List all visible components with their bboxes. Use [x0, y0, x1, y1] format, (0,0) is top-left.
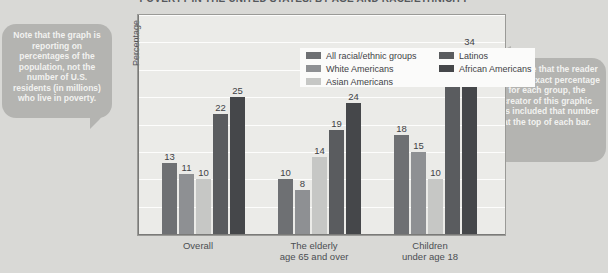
callout-left-text: Note that the graph is reporting on perc…	[13, 30, 101, 103]
legend-column-right: LatinosAfrican Americans	[439, 48, 535, 87]
bar-item[interactable]: 29	[445, 75, 460, 234]
bar-item[interactable]: 10	[278, 179, 293, 234]
bar[interactable]	[179, 174, 194, 234]
x-axis-category-line: The elderly	[254, 240, 374, 251]
x-axis-category-line: Children	[370, 240, 490, 251]
bar-value-label: 24	[348, 91, 359, 102]
bar[interactable]	[394, 135, 409, 234]
bar-item[interactable]: 19	[329, 130, 344, 234]
bar-item[interactable]: 10	[428, 179, 443, 234]
chart-title: POVERTY IN THE UNITED STATES, BY AGE AND…	[0, 0, 608, 2]
bar[interactable]	[329, 130, 344, 234]
bar[interactable]	[213, 114, 228, 234]
legend-item[interactable]: All racial/ethnic groups	[306, 50, 439, 61]
legend-item[interactable]: African Americans	[439, 63, 535, 74]
bar-value-label: 22	[215, 102, 226, 113]
legend-label: African Americans	[459, 64, 532, 74]
bar-item[interactable]: 18	[394, 135, 409, 234]
bar-item[interactable]: 15	[411, 152, 426, 234]
legend-swatch-icon	[306, 65, 321, 72]
bar-value-label: 34	[464, 36, 475, 47]
legend-label: Asian Americans	[326, 77, 393, 87]
legend-swatch-icon	[439, 65, 454, 72]
x-axis-line	[138, 234, 505, 235]
x-axis-category-line: Overall	[138, 240, 258, 251]
legend-column-left: All racial/ethnic groupsWhite AmericansA…	[300, 48, 439, 87]
bar-value-label: 8	[300, 178, 305, 189]
x-axis-category-line: age 65 and over	[254, 251, 374, 262]
chart-plot-area: 0%5%10%15%20%25%30%35%40% Percentage 131…	[137, 14, 506, 236]
bar-item[interactable]: 25	[230, 97, 245, 234]
legend-item[interactable]: Latinos	[439, 50, 535, 61]
bar[interactable]	[278, 179, 293, 234]
bar-item[interactable]: 24	[346, 103, 361, 234]
x-axis-category-label: Childrenunder age 18	[370, 240, 490, 262]
legend-swatch-icon	[306, 78, 321, 85]
bar[interactable]	[295, 190, 310, 234]
legend-item[interactable]: Asian Americans	[306, 76, 439, 87]
callout-left: Note that the graph is reporting on perc…	[2, 24, 112, 118]
chart-legend: All racial/ethnic groupsWhite AmericansA…	[300, 48, 535, 87]
legend-label: All racial/ethnic groups	[326, 51, 417, 61]
bar-item[interactable]: 14	[312, 157, 327, 234]
bar-item[interactable]: 10	[196, 179, 211, 234]
legend-label: Latinos	[459, 51, 488, 61]
x-axis-category-label: Overall	[138, 240, 258, 251]
bar-value-label: 15	[413, 140, 424, 151]
bar-group: 1311102225	[162, 97, 245, 234]
legend-label: White Americans	[326, 64, 394, 74]
bar-value-label: 10	[430, 167, 441, 178]
bar-group: 108141924	[278, 103, 361, 234]
bar-item[interactable]: 13	[162, 163, 177, 234]
bar-value-label: 18	[396, 123, 407, 134]
bar-value-label: 10	[280, 167, 291, 178]
legend-item[interactable]: White Americans	[306, 63, 439, 74]
bar-item[interactable]: 22	[213, 114, 228, 234]
x-axis-category-line: under age 18	[370, 251, 490, 262]
bar-value-label: 10	[198, 167, 209, 178]
bar-value-label: 13	[164, 151, 175, 162]
legend-swatch-icon	[439, 52, 454, 59]
bar[interactable]	[445, 75, 460, 234]
bar-item[interactable]: 8	[295, 190, 310, 234]
bar-item[interactable]: 11	[179, 174, 194, 234]
bar-value-label: 14	[314, 145, 325, 156]
bar[interactable]	[346, 103, 361, 234]
callout-left-tail-icon	[90, 114, 104, 129]
x-axis-category-label: The elderlyage 65 and over	[254, 240, 374, 262]
bar[interactable]	[196, 179, 211, 234]
y-axis-line	[138, 15, 139, 235]
bar[interactable]	[411, 152, 426, 234]
bar[interactable]	[312, 157, 327, 234]
bar[interactable]	[230, 97, 245, 234]
bar[interactable]	[162, 163, 177, 234]
bar-value-label: 25	[232, 85, 243, 96]
bar[interactable]	[428, 179, 443, 234]
legend-swatch-icon	[306, 52, 321, 59]
bar-value-label: 11	[182, 162, 192, 173]
bar-value-label: 19	[331, 118, 342, 129]
